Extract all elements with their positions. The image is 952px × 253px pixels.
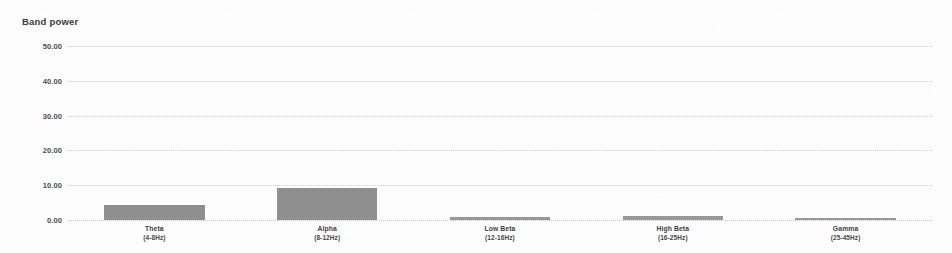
band-frequency-range: (16-25Hz) [586,233,759,242]
y-axis-tick-label: 30.00 [10,111,62,120]
x-axis-tick-label: Alpha(8-12Hz) [241,224,414,242]
x-axis-labels: Theta(4-8Hz)Alpha(8-12Hz)Low Beta(12-16H… [68,224,932,250]
x-axis-tick-label: Gamma(25-45Hz) [759,224,932,242]
x-axis-tick-label: Theta(4-8Hz) [68,224,241,242]
bar[interactable] [277,188,377,220]
band-name: Theta [145,225,164,232]
bar[interactable] [795,218,895,220]
band-name: High Beta [656,225,689,232]
band-name: Low Beta [484,225,515,232]
y-axis-tick-label: 40.00 [10,76,62,85]
y-axis-tick-label: 10.00 [10,181,62,190]
band-name: Gamma [833,225,858,232]
band-name: Alpha [318,225,337,232]
gridline [68,220,932,221]
bar[interactable] [104,205,204,220]
x-axis-tick-label: Low Beta(12-16Hz) [414,224,587,242]
plot-area [68,46,932,220]
band-frequency-range: (8-12Hz) [241,233,414,242]
band-power-chart: Band power 0.0010.0020.0030.0040.0050.00… [0,0,952,253]
y-axis-tick-label: 50.00 [10,42,62,51]
band-frequency-range: (4-8Hz) [68,233,241,242]
y-axis-tick-label: 0.00 [10,216,62,225]
x-axis-tick-label: High Beta(16-25Hz) [586,224,759,242]
bar-series [68,46,932,220]
y-axis: 0.0010.0020.0030.0040.0050.00 [0,46,62,220]
y-axis-tick-label: 20.00 [10,146,62,155]
band-frequency-range: (12-16Hz) [414,233,587,242]
band-frequency-range: (25-45Hz) [759,233,932,242]
chart-title: Band power [22,16,78,27]
bar[interactable] [623,216,723,220]
bar[interactable] [450,217,550,220]
